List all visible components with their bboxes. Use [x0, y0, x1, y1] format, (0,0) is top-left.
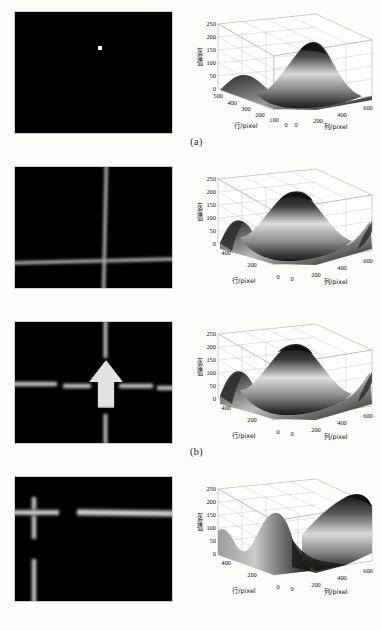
- svg-text:150: 150: [206, 201, 216, 208]
- svg-text:600: 600: [363, 567, 373, 574]
- svg-text:50: 50: [210, 537, 216, 544]
- svg-text:200: 200: [311, 581, 321, 588]
- surface-plot-a: 灰度值 250 200 150: [196, 10, 378, 134]
- figure-page: 灰度值 250 200 150: [0, 0, 381, 631]
- svg-text:0: 0: [294, 121, 297, 128]
- row-axis-label-a: 行/pixel: [234, 121, 258, 130]
- grayscale-image-d: [15, 477, 172, 601]
- bright-dot-feature: [98, 46, 102, 50]
- z-axis-label-d: 灰度值: [196, 513, 202, 531]
- figure-row-d: 灰度值 250 200 150 100: [0, 465, 381, 631]
- vertical-segment-bottom: [103, 414, 108, 443]
- svg-text:0: 0: [276, 428, 279, 435]
- horizontal-segment-mid-right: [119, 383, 153, 389]
- col-axis-label-d: 列/pixel: [324, 587, 348, 596]
- col-axis-label-a: 列/pixel: [324, 122, 348, 131]
- svg-text:200: 200: [247, 261, 257, 268]
- svg-text:200: 200: [206, 498, 216, 505]
- row-axis-label-d: 行/pixel: [232, 586, 256, 595]
- svg-text:400: 400: [337, 419, 347, 426]
- z-axis-label-a: 灰度值: [196, 48, 202, 66]
- z-axis-label-c: 灰度值: [196, 358, 202, 376]
- horizontal-segment-mid-left: [63, 383, 91, 389]
- horizontal-line-feature: [15, 257, 172, 265]
- figure-row-b: 灰度值 250 200 150 100: [0, 155, 381, 310]
- svg-text:400: 400: [337, 111, 347, 118]
- figure-row-c: 灰度值 250 200 150 100: [0, 310, 381, 465]
- figure-row-a: 灰度值 250 200 150: [0, 0, 381, 155]
- vertical-line-feature: [102, 167, 109, 288]
- svg-text:250: 250: [206, 485, 216, 492]
- svg-text:150: 150: [206, 46, 216, 53]
- svg-text:0: 0: [213, 240, 216, 247]
- svg-text:250: 250: [206, 175, 216, 182]
- long-horizontal-bar: [77, 508, 172, 517]
- vertical-segment-top: [103, 322, 108, 358]
- svg-text:150: 150: [206, 356, 216, 363]
- svg-text:200: 200: [247, 416, 257, 423]
- caption-text-a: (a): [190, 136, 203, 147]
- row-axis-label-c: 行/pixel: [232, 431, 256, 440]
- z-ticks-b: 250 200 150 100 50 0: [206, 175, 216, 247]
- svg-text:400: 400: [337, 574, 347, 581]
- svg-text:0: 0: [276, 273, 279, 280]
- svg-text:200: 200: [206, 343, 216, 350]
- svg-text:200: 200: [247, 571, 257, 578]
- svg-text:0: 0: [276, 583, 279, 590]
- horizontal-segment-left: [15, 381, 57, 387]
- svg-text:100: 100: [206, 214, 216, 221]
- svg-text:200: 200: [206, 188, 216, 195]
- svg-text:600: 600: [363, 104, 373, 111]
- svg-text:0: 0: [284, 121, 287, 128]
- surface-plot-c: 灰度值 250 200 150 100: [196, 320, 378, 444]
- svg-text:600: 600: [363, 257, 373, 264]
- svg-text:200: 200: [206, 33, 216, 40]
- svg-text:250: 250: [206, 20, 216, 27]
- svg-text:0: 0: [290, 430, 293, 437]
- svg-text:100: 100: [269, 116, 279, 123]
- svg-text:250: 250: [206, 330, 216, 337]
- small-cross-horizontal: [15, 509, 59, 516]
- svg-text:0: 0: [290, 275, 293, 282]
- panel-caption-a: (a): [0, 136, 381, 147]
- svg-text:600: 600: [363, 412, 373, 419]
- z-ticks-d: 250 200 150 100 50 0: [206, 485, 216, 557]
- row-axis-label-b: 行/pixel: [232, 276, 256, 285]
- z-ticks-a: 250 200 150 100 50 0: [206, 20, 216, 92]
- svg-text:50: 50: [210, 72, 216, 79]
- horizontal-segment-right: [157, 385, 172, 391]
- svg-text:400: 400: [227, 99, 237, 106]
- svg-text:100: 100: [206, 369, 216, 376]
- surface-plot-d: 灰度值 250 200 150 100: [196, 475, 378, 599]
- svg-text:0: 0: [213, 395, 216, 402]
- svg-text:0: 0: [213, 550, 216, 557]
- small-cross-vertical: [31, 497, 37, 539]
- z-axis-label-b: 灰度值: [196, 203, 202, 221]
- svg-text:500: 500: [213, 92, 223, 99]
- svg-text:200: 200: [313, 117, 323, 124]
- svg-text:400: 400: [221, 404, 231, 411]
- arrow-marker-feature: [89, 360, 123, 408]
- z-ticks-c: 250 200 150 100 50 0: [206, 330, 216, 402]
- svg-text:0: 0: [290, 585, 293, 592]
- surface-plot-b: 灰度值 250 200 150 100: [196, 165, 378, 289]
- svg-text:150: 150: [206, 511, 216, 518]
- col-axis-label-b: 列/pixel: [324, 277, 348, 286]
- svg-text:200: 200: [311, 271, 321, 278]
- grayscale-image-c: [15, 322, 172, 443]
- svg-text:200: 200: [311, 426, 321, 433]
- svg-text:50: 50: [210, 227, 216, 234]
- svg-text:400: 400: [221, 559, 231, 566]
- svg-text:100: 100: [206, 59, 216, 66]
- svg-text:100: 100: [206, 524, 216, 531]
- svg-text:0: 0: [213, 85, 216, 92]
- svg-text:300: 300: [241, 105, 251, 112]
- svg-text:50: 50: [210, 382, 216, 389]
- lower-vertical-bar: [31, 559, 37, 601]
- col-axis-label-c: 列/pixel: [324, 432, 348, 441]
- svg-text:400: 400: [337, 264, 347, 271]
- svg-text:200: 200: [255, 111, 265, 118]
- grayscale-image-b: [15, 167, 172, 288]
- svg-text:400: 400: [221, 249, 231, 256]
- grayscale-image-a: [15, 12, 172, 133]
